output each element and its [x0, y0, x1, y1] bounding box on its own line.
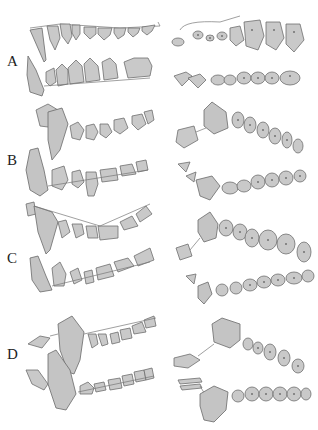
- panel-a-lateral-lower: [27, 56, 152, 96]
- dental-figure: [0, 0, 318, 430]
- panel-b-lateral-upper: [36, 104, 154, 160]
- panel-b-occlusal-upper: [176, 102, 303, 153]
- panel-a-occlusal-upper: [172, 16, 304, 52]
- panel-b-occlusal-lower: [178, 162, 306, 200]
- panel-a-lateral-upper: [30, 22, 160, 62]
- panel-c-lateral-lower: [30, 248, 154, 292]
- panel-a-occlusal-lower: [174, 71, 300, 88]
- panel-c-lateral-upper: [26, 202, 152, 254]
- panel-d-lateral-upper: [28, 316, 156, 374]
- panel-d-lateral-lower: [26, 350, 154, 410]
- panel-d-occlusal-upper: [174, 318, 304, 373]
- panel-d-occlusal-lower: [178, 378, 311, 422]
- panel-b-lateral-lower: [26, 148, 148, 196]
- panel-c-occlusal-upper: [176, 212, 311, 262]
- panel-c-occlusal-lower: [186, 270, 314, 304]
